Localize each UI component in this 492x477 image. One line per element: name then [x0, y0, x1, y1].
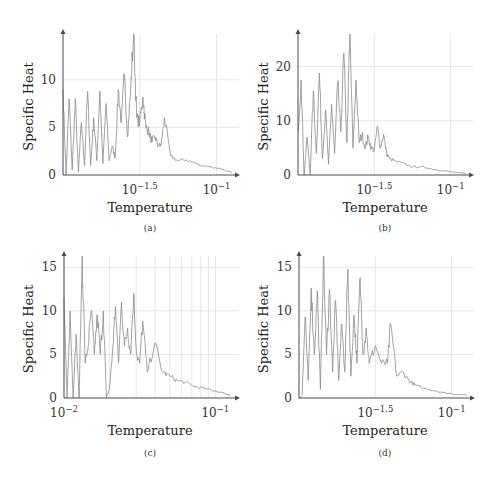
- specific-heat-curve: [63, 34, 232, 175]
- y-axis-label: Specific Heat: [21, 62, 36, 151]
- x-axis-label: Temperature: [107, 200, 192, 215]
- y-axis-arrow-icon: [61, 29, 66, 34]
- axes: [62, 251, 241, 401]
- figure-svg: 051010−1.510−1TemperatureSpecific Heat(a…: [0, 0, 492, 477]
- x-tick-label: 10−1.5: [122, 181, 158, 197]
- y-axis-arrow-icon: [62, 251, 67, 256]
- x-axis-arrow-icon: [469, 173, 474, 178]
- y-tick-label: 20: [276, 60, 291, 74]
- y-tick-label: 10: [42, 304, 57, 318]
- y-axis-label: Specific Heat: [256, 284, 271, 373]
- y-tick-label: 5: [284, 347, 292, 361]
- y-tick-label: 0: [48, 168, 56, 182]
- y-tick-label: 0: [284, 391, 292, 405]
- y-tick-label: 0: [49, 391, 57, 405]
- y-tick-label: 5: [49, 347, 57, 361]
- x-axis-label: Temperature: [342, 423, 427, 438]
- chart-panel-d: 05101510−1.510−1TemperatureSpecific Heat…: [256, 251, 475, 458]
- x-tick-label: 10−1: [438, 404, 466, 420]
- y-axis-label: Specific Heat: [21, 284, 36, 373]
- y-tick-label: 15: [42, 260, 57, 274]
- panel-caption: (b): [379, 223, 392, 233]
- grid: [64, 256, 239, 398]
- y-tick-label: 10: [41, 73, 56, 87]
- y-axis-label: Specific Heat: [256, 62, 271, 151]
- panel-caption: (c): [144, 448, 156, 458]
- x-tick-label: 10−2: [50, 404, 78, 420]
- grid: [298, 34, 473, 175]
- x-tick-label: 10−1.5: [356, 181, 392, 197]
- x-axis-arrow-icon: [235, 396, 240, 401]
- x-tick-label: 10−1: [201, 404, 229, 420]
- y-axis-arrow-icon: [297, 251, 302, 256]
- x-tick-label: 10−1.5: [357, 404, 393, 420]
- panel-caption: (d): [379, 448, 392, 458]
- chart-panel-b: 0102010−1.510−1TemperatureSpecific Heat(…: [256, 29, 474, 233]
- y-tick-label: 15: [277, 260, 292, 274]
- specific-heat-curve: [298, 34, 466, 175]
- chart-panel-c: 05101510−210−1TemperatureSpecific Heat(c…: [21, 251, 240, 458]
- y-tick-label: 5: [48, 120, 56, 134]
- grid: [63, 34, 239, 175]
- x-axis-arrow-icon: [235, 173, 240, 178]
- x-tick-label: 10−1: [203, 181, 231, 197]
- specific-heat-curve: [299, 256, 467, 398]
- x-axis-label: Temperature: [342, 200, 427, 215]
- y-tick-label: 0: [283, 168, 291, 182]
- panel-caption: (a): [144, 223, 156, 233]
- x-axis-arrow-icon: [470, 396, 475, 401]
- specific-heat-curve: [64, 256, 231, 398]
- y-tick-label: 10: [277, 304, 292, 318]
- x-tick-label: 10−1: [437, 181, 465, 197]
- x-axis-label: Temperature: [107, 423, 192, 438]
- chart-panel-a: 051010−1.510−1TemperatureSpecific Heat(a…: [21, 29, 240, 233]
- y-tick-label: 10: [276, 114, 291, 128]
- grid: [299, 256, 474, 398]
- y-axis-arrow-icon: [296, 29, 301, 34]
